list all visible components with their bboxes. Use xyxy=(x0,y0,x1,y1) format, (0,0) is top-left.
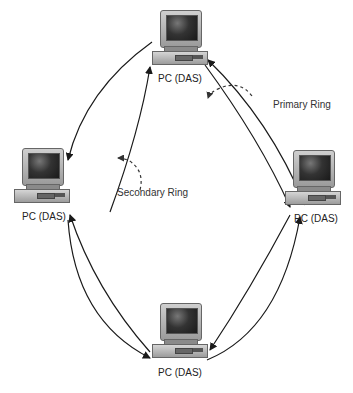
computer-case-icon xyxy=(14,189,70,203)
pc-bottom-label: PC (DAS) xyxy=(158,367,202,378)
primary-ring-pointer xyxy=(208,85,252,98)
link-top-left-outer xyxy=(68,42,152,160)
pc-top xyxy=(150,10,210,72)
monitor-icon xyxy=(160,10,202,48)
secondary-ring-pointer xyxy=(118,158,141,190)
pc-left xyxy=(12,148,72,210)
monitor-icon xyxy=(293,150,335,188)
pc-top-label: PC (DAS) xyxy=(158,73,202,84)
pc-right xyxy=(283,150,343,212)
pc-bottom xyxy=(150,303,210,365)
link-bottom-right-outer xyxy=(207,217,300,360)
pc-left-label: PC (DAS) xyxy=(22,211,66,222)
pc-right-label: PC (DAS) xyxy=(294,213,338,224)
primary-ring-label: Primary Ring xyxy=(273,99,331,110)
computer-case-icon xyxy=(285,191,341,205)
monitor-icon xyxy=(160,303,202,341)
computer-case-icon xyxy=(152,51,208,65)
computer-case-icon xyxy=(152,344,208,358)
secondary-ring-label: Secondary Ring xyxy=(117,187,188,198)
link-top-right-outer xyxy=(205,65,290,207)
monitor-icon xyxy=(22,148,64,186)
